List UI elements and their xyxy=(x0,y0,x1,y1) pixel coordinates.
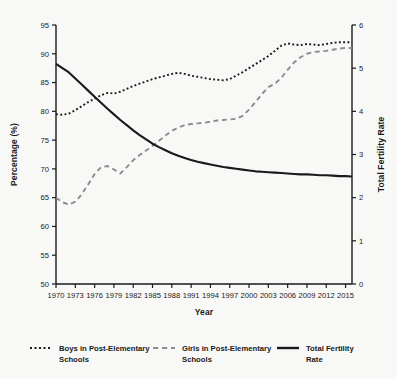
legend-label-3-line2: Rate xyxy=(306,355,323,364)
y-axis-left-tick-label: 85 xyxy=(41,78,49,87)
x-axis-tick-label: 1976 xyxy=(86,291,103,300)
x-axis-tick-label: 1988 xyxy=(163,291,180,300)
x-axis-tick-label: 1970 xyxy=(48,291,65,300)
chart-figure: 5055606570758085909501234561970197319761… xyxy=(0,0,397,379)
y-axis-left-tick-label: 55 xyxy=(41,251,49,260)
chart-series-layer xyxy=(56,42,352,204)
x-axis-tick-label: 2000 xyxy=(241,291,258,300)
x-axis-tick-label: 1991 xyxy=(183,291,200,300)
y-axis-right-tick-label: 4 xyxy=(359,107,363,116)
x-axis-tick-label: 2009 xyxy=(299,291,316,300)
x-axis-title: Year xyxy=(195,307,214,317)
x-axis-tick-label: 1985 xyxy=(144,291,161,300)
x-axis-tick-label: 2003 xyxy=(260,291,277,300)
x-axis-tick-label: 1982 xyxy=(125,291,142,300)
y-axis-left-tick-label: 80 xyxy=(41,107,49,116)
x-axis-tick-label: 1979 xyxy=(105,291,122,300)
y-axis-right-tick-label: 1 xyxy=(359,237,363,246)
x-axis-tick-label: 2015 xyxy=(337,291,354,300)
legend-label-1-line2: Schools xyxy=(59,355,89,364)
y-axis-left-tick-label: 90 xyxy=(41,50,49,59)
series-line-2 xyxy=(56,48,352,205)
x-axis-tick-label: 1997 xyxy=(221,291,238,300)
legend-item-1: Boys in Post-ElementarySchools xyxy=(30,344,150,364)
chart-axes xyxy=(52,25,356,288)
x-axis-tick-label: 1994 xyxy=(202,291,219,300)
y-axis-right-tick-label: 3 xyxy=(359,150,363,159)
y-axis-left-tick-label: 70 xyxy=(41,165,49,174)
y-axis-left-tick-label: 75 xyxy=(41,136,49,145)
y-axis-right-tick-label: 0 xyxy=(359,280,363,289)
series-line-3 xyxy=(56,64,352,177)
y-axis-left-tick-label: 60 xyxy=(41,222,49,231)
legend-label-2: Girls in Post-Elementary xyxy=(182,344,272,353)
chart-labels-layer: 5055606570758085909501234561970197319761… xyxy=(9,21,386,317)
legend-item-3: Total FertilityRate xyxy=(277,344,354,364)
chart-legend: Boys in Post-ElementarySchoolsGirls in P… xyxy=(30,344,354,364)
x-axis-tick-label: 2006 xyxy=(279,291,296,300)
legend-label-2-line2: Schools xyxy=(182,355,212,364)
y-axis-left-title: Percentage (%) xyxy=(9,123,19,186)
y-axis-right-tick-label: 2 xyxy=(359,193,363,202)
legend-label-3: Total Fertility xyxy=(306,344,354,353)
y-axis-right-tick-label: 5 xyxy=(359,64,363,73)
y-axis-right-title: Total Fertility Rate xyxy=(376,117,386,193)
legend-item-2: Girls in Post-ElementarySchools xyxy=(153,344,272,364)
y-axis-left-tick-label: 65 xyxy=(41,193,49,202)
y-axis-left-tick-label: 95 xyxy=(41,21,49,30)
x-axis-tick-label: 1973 xyxy=(67,291,84,300)
legend-label-1: Boys in Post-Elementary xyxy=(59,344,150,353)
line-chart: 5055606570758085909501234561970197319761… xyxy=(0,0,397,379)
y-axis-left-tick-label: 50 xyxy=(41,280,49,289)
y-axis-right-tick-label: 6 xyxy=(359,21,363,30)
x-axis-tick-label: 2012 xyxy=(318,291,335,300)
